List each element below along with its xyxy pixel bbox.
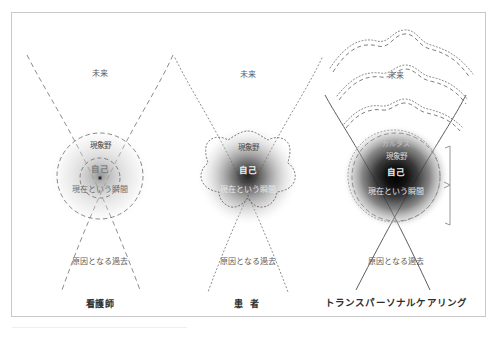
transpersonal-label-causal-past: 原因となる過去 [368,258,424,266]
caption-nurse: 看護師 [86,297,114,310]
patient-label-future: 未来 [240,71,256,79]
transpersonal-wave-arcs [330,30,473,131]
patient-field-gradient [196,125,300,227]
nurse-label-phenomenal-field: 現象野 [90,142,111,150]
caption-transpersonal: トランスパーソナルケアリング [325,295,468,309]
bracket-cap-bottom [445,223,450,225]
transpersonal-label-phenomenal-field: 現象野 [386,153,407,161]
bracket-cap-top [445,146,450,148]
nurse-label-present-moment: 現在という瞬間 [72,186,128,194]
wave-arc-outer-dotted [330,30,473,74]
caption-patient: 患 者 [234,297,262,310]
nurse-center-point [99,177,102,180]
nurse-label-causal-past: 原因となる過去 [72,258,128,266]
page-edge-artifact [12,327,187,336]
patient-label-self: 自己 [239,166,257,175]
transpersonal-label-aura: カルタス [382,140,410,147]
patient-label-causal-past: 原因となる過去 [220,258,276,266]
transpersonal-label-present-moment: 現在という瞬間 [368,188,424,196]
diagram-figure: 未来 現象野 自己 現在という瞬間 原因となる過去 看護師 未来 現象野 自己 … [0,0,497,338]
nurse-label-future: 未来 [92,70,108,78]
transpersonal-label-self: 自己 [387,168,405,177]
patient-label-present-moment: 現在という瞬間 [220,186,276,194]
nurse-label-self: 自己 [91,165,109,174]
transpersonal-label-future: 未来 [388,72,404,80]
patient-label-phenomenal-field: 現象野 [238,144,259,152]
